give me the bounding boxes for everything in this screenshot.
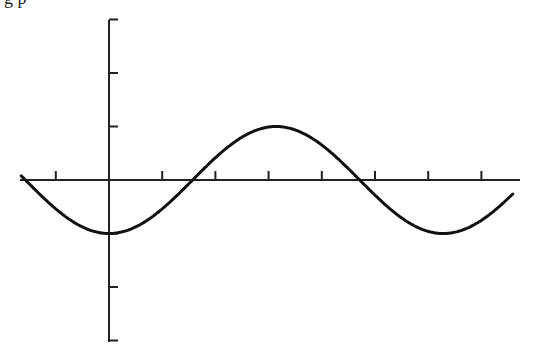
axes <box>20 20 520 343</box>
sine-wave-plot <box>0 0 533 351</box>
